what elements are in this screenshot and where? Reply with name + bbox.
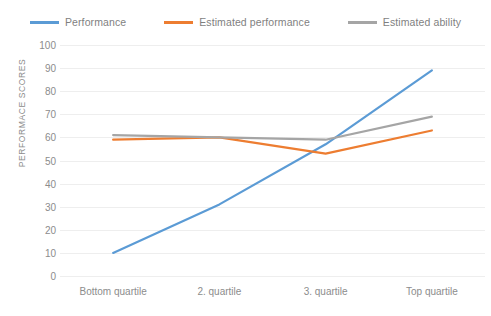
chart-legend: PerformanceEstimated performanceEstimate… bbox=[0, 13, 491, 31]
series-lines bbox=[60, 45, 485, 276]
y-tick-label: 50 bbox=[2, 155, 56, 166]
y-tick-label: 0 bbox=[2, 271, 56, 282]
plot-area bbox=[60, 45, 485, 276]
legend-label: Performance bbox=[65, 16, 126, 28]
legend-swatch-icon bbox=[164, 21, 193, 24]
legend-swatch-icon bbox=[30, 21, 59, 24]
legend-item[interactable]: Estimated ability bbox=[348, 16, 461, 28]
series-line bbox=[113, 130, 432, 153]
line-chart: PerformanceEstimated performanceEstimate… bbox=[0, 0, 491, 316]
y-tick-label: 30 bbox=[2, 201, 56, 212]
y-tick-label: 20 bbox=[2, 224, 56, 235]
x-tick-label: 3. quartile bbox=[273, 286, 379, 302]
series-line bbox=[113, 70, 432, 252]
legend-item[interactable]: Performance bbox=[30, 16, 126, 28]
y-tick-label: 10 bbox=[2, 247, 56, 258]
y-tick-label: 60 bbox=[2, 132, 56, 143]
series-line bbox=[113, 117, 432, 140]
y-tick-label: 100 bbox=[2, 40, 56, 51]
x-tick-label: Top quartile bbox=[379, 286, 485, 302]
x-tick-label: 2. quartile bbox=[166, 286, 272, 302]
y-axis-tick-labels: 1009080706050403020100 bbox=[0, 45, 56, 276]
gridline bbox=[60, 276, 485, 277]
y-axis-title: PERFORMACE SCORES bbox=[17, 43, 27, 183]
legend-label: Estimated ability bbox=[383, 16, 461, 28]
y-tick-label: 90 bbox=[2, 63, 56, 74]
legend-label: Estimated performance bbox=[199, 16, 310, 28]
y-tick-label: 40 bbox=[2, 178, 56, 189]
legend-swatch-icon bbox=[348, 21, 377, 24]
x-axis-tick-labels: Bottom quartile2. quartile3. quartileTop… bbox=[60, 286, 485, 302]
y-tick-label: 70 bbox=[2, 109, 56, 120]
x-tick-label: Bottom quartile bbox=[60, 286, 166, 302]
legend-item[interactable]: Estimated performance bbox=[164, 16, 310, 28]
y-tick-label: 80 bbox=[2, 86, 56, 97]
